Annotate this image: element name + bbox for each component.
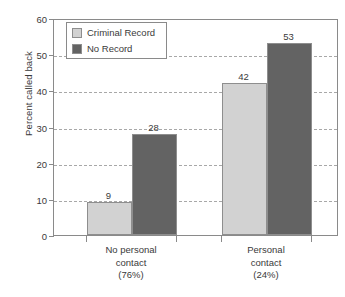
x-tick-mark <box>311 236 312 242</box>
x-category-label: Personalcontact(24%) <box>247 244 285 282</box>
bar-value-label: 53 <box>283 31 294 42</box>
legend-item-no-record: No Record <box>72 42 166 56</box>
y-tick-mark <box>49 236 54 237</box>
bar-value-label: 28 <box>148 122 159 133</box>
x-tick-mark <box>86 236 87 242</box>
y-tick-label: 50 <box>27 50 47 61</box>
x-category-label-line: contact <box>247 257 285 270</box>
legend-label-criminal-record: Criminal Record <box>87 28 155 38</box>
x-tick-mark <box>221 236 222 242</box>
bar-value-label: 42 <box>238 71 249 82</box>
y-tick-label: 0 <box>27 231 47 242</box>
y-tick-label: 60 <box>27 14 47 25</box>
x-category-label-line: No personal <box>105 244 156 257</box>
legend-swatch-no-record <box>72 44 82 54</box>
bar-value-label: 9 <box>106 190 111 201</box>
bar-criminal-record <box>222 83 267 235</box>
y-tick-label: 20 <box>27 158 47 169</box>
x-tick-mark <box>176 236 177 242</box>
bar-chart: Percent called back 0102030405060 928425… <box>0 0 345 297</box>
x-category-label-line: (76%) <box>105 269 156 282</box>
y-tick-label: 30 <box>27 122 47 133</box>
y-tick-label: 10 <box>27 194 47 205</box>
legend: Criminal Record No Record <box>66 22 167 59</box>
x-category-label-line: contact <box>105 257 156 270</box>
clipped-caption <box>22 288 332 295</box>
x-category-label-line: Personal <box>247 244 285 257</box>
legend-item-criminal-record: Criminal Record <box>72 26 166 40</box>
x-category-label: No personalcontact(76%) <box>105 244 156 282</box>
y-tick-label: 40 <box>27 86 47 97</box>
bar-no-record <box>267 43 312 235</box>
legend-swatch-criminal-record <box>72 28 82 38</box>
bar-criminal-record <box>87 202 132 235</box>
legend-label-no-record: No Record <box>87 44 132 54</box>
x-category-label-line: (24%) <box>247 269 285 282</box>
bar-no-record <box>132 134 177 235</box>
